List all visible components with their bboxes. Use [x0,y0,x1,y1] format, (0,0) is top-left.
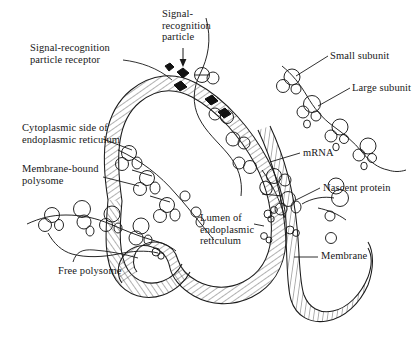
label-lumen: Lumen of endoplasmic reticulum [200,212,254,247]
label-nascent-protein: Nascent protein [323,182,391,194]
label-membrane: Membrane [321,250,367,262]
label-srp-receptor: Signal-recognition particle receptor [30,42,110,65]
label-membrane-bound-polysome: Membrane-bound polysome [22,163,99,186]
label-free-polysome: Free polysome [58,265,121,277]
label-small-subunit: Small subunit [330,50,389,62]
label-mrna: mRNA [303,147,334,159]
label-cytoplasmic-side: Cytoplasmic side of endoplasmic reticulu… [22,122,120,145]
label-large-subunit: Large subunit [352,82,411,94]
label-srp: Signal- recognition particle [162,8,211,43]
